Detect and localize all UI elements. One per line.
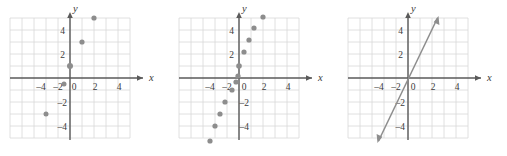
y-axis-label-3: y bbox=[410, 3, 416, 14]
data-point bbox=[241, 49, 246, 54]
y-tick-label-3-neg4: –4 bbox=[395, 122, 406, 132]
y-tick-label-2-neg2: –2 bbox=[239, 98, 250, 108]
x-axis-arrow-2 bbox=[306, 75, 312, 81]
y-axis-arrow-1 bbox=[67, 12, 73, 18]
y-tick-label-2-pos4: 4 bbox=[229, 26, 234, 36]
data-point bbox=[251, 25, 256, 30]
y-tick-label-3-pos2: 2 bbox=[398, 50, 403, 60]
graph-panel-1: x y –4 –2 0 2 4 4 2 –2 –4 bbox=[0, 0, 169, 156]
x-axis-label-3: x bbox=[486, 72, 492, 83]
origin-label-3: 0 bbox=[411, 82, 416, 92]
x-tick-label-1-neg2: –2 bbox=[52, 82, 63, 92]
y-tick-label-2-neg4: –4 bbox=[239, 122, 250, 132]
data-point bbox=[207, 138, 212, 143]
data-point bbox=[229, 87, 234, 92]
x-tick-label-1-neg4: –4 bbox=[35, 82, 46, 92]
three-coordinate-graphs-figure: x y –4 –2 0 2 4 4 2 –2 –4 bbox=[0, 0, 507, 156]
x-tick-label-3-pos2: 2 bbox=[431, 82, 436, 92]
data-point bbox=[233, 79, 238, 84]
y-tick-label-3-pos4: 4 bbox=[398, 26, 403, 36]
x-tick-label-3-pos4: 4 bbox=[455, 82, 460, 92]
data-point bbox=[217, 111, 222, 116]
x-axis-arrow-3 bbox=[475, 75, 481, 81]
data-point bbox=[222, 99, 227, 104]
x-axis-label-2: x bbox=[317, 72, 323, 83]
data-point bbox=[235, 73, 240, 78]
x-tick-label-3-neg4: –4 bbox=[373, 82, 384, 92]
y-axis-label-1: y bbox=[72, 3, 78, 14]
data-point bbox=[44, 112, 49, 117]
origin-label-1: 0 bbox=[72, 82, 77, 92]
axes-1 bbox=[10, 14, 143, 140]
x-tick-label-1-pos4: 4 bbox=[117, 82, 122, 92]
x-tick-label-2-neg4: –4 bbox=[204, 82, 215, 92]
origin-label-2: 0 bbox=[242, 82, 247, 92]
x-tick-label-2-pos2: 2 bbox=[262, 82, 267, 92]
data-points-2 bbox=[207, 14, 265, 143]
data-point bbox=[212, 123, 217, 128]
graph-panel-3: x y –4 –2 0 2 4 4 2 –2 –4 bbox=[338, 0, 507, 156]
y-tick-label-1-neg4: –4 bbox=[57, 122, 68, 132]
x-tick-label-2-pos4: 4 bbox=[286, 82, 291, 92]
graph-panel-2: x y –4 –2 0 2 4 4 2 –2 –4 bbox=[169, 0, 338, 156]
x-tick-label-3-neg2: –2 bbox=[390, 82, 401, 92]
y-tick-label-1-neg2: –2 bbox=[57, 98, 68, 108]
y-axis-label-2: y bbox=[241, 3, 247, 14]
y-tick-label-1-pos4: 4 bbox=[60, 26, 65, 36]
data-point bbox=[246, 37, 251, 42]
x-axis-arrow-1 bbox=[137, 75, 143, 81]
x-axis-label-1: x bbox=[148, 72, 154, 83]
data-point bbox=[79, 39, 84, 44]
y-tick-label-2-pos2: 2 bbox=[229, 50, 234, 60]
data-point bbox=[260, 14, 265, 19]
y-tick-label-1-pos2: 2 bbox=[60, 50, 65, 60]
data-point bbox=[62, 82, 67, 87]
data-point bbox=[67, 63, 73, 69]
axes-3 bbox=[348, 14, 481, 140]
y-axis-arrow-2 bbox=[236, 12, 242, 18]
x-tick-label-1-pos2: 2 bbox=[93, 82, 98, 92]
y-axis-arrow-3 bbox=[405, 12, 411, 18]
data-point bbox=[91, 15, 96, 20]
data-point bbox=[236, 63, 242, 69]
